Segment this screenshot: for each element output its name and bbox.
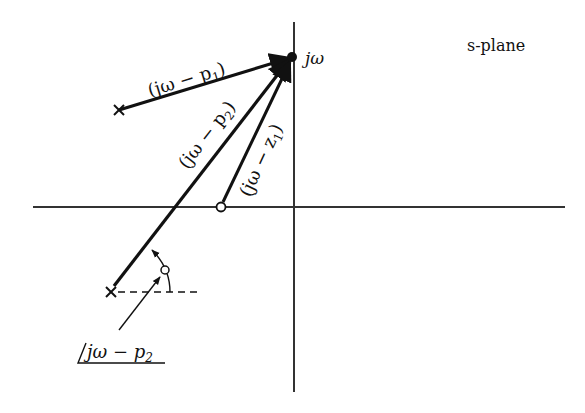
pole-p2-marker (106, 287, 116, 297)
svg-text:(jω − p1): (jω − p1) (145, 57, 229, 103)
angle-pointer-arrow (119, 277, 160, 330)
svg-text:jω − p2: jω − p2 (83, 341, 153, 365)
jw-point (287, 52, 297, 62)
angle-arc-circle (161, 266, 169, 274)
angle-label: jω − p2 (78, 341, 165, 365)
s-plane-label: s-plane (467, 36, 525, 55)
jw-label: jω (301, 48, 324, 68)
s-plane-diagram: jω s-plane (jω − p1) (jω − p2) (jω − z1)… (0, 0, 585, 413)
label-jw-minus-p1: (jω − p1) (145, 57, 229, 103)
zero-z1-marker (217, 203, 226, 212)
